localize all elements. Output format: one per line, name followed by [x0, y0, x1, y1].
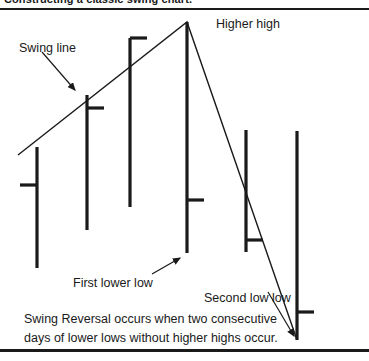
- label-swing-line: Swing line: [19, 40, 76, 57]
- label-first-lower-low: First lower low: [73, 275, 153, 292]
- swing-line-arrow: [42, 52, 75, 90]
- label-second-low-low: Second low low: [204, 290, 291, 307]
- first-lower-low-arrow: [152, 258, 180, 274]
- swing-chart-figure: Constructing a classic swing chart. Swin…: [0, 0, 369, 361]
- label-higher-high: Higher high: [216, 16, 280, 33]
- label-swing-reversal-caption: Swing Reversal occurs when two consecuti…: [24, 310, 292, 348]
